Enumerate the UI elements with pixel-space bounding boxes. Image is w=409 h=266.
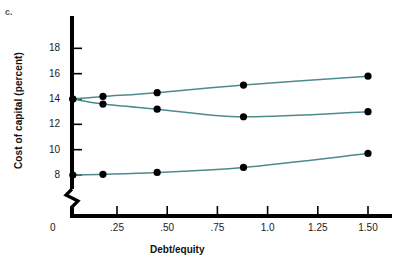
y-axis-break-icon <box>66 189 78 207</box>
x-tick-label-.75: .75 <box>197 222 237 233</box>
series-line-2 <box>73 153 368 175</box>
data-point-s0-p4 <box>364 73 371 80</box>
x-tick-label-1.50: 1.50 <box>348 222 388 233</box>
panel-label: c. <box>5 7 13 17</box>
series-markers <box>69 73 371 179</box>
data-point-s0-p2 <box>154 89 161 96</box>
y-axis-label: Cost of capital (percent) <box>13 31 24 191</box>
series-line-0 <box>73 76 368 99</box>
data-point-s2-p1 <box>99 171 106 178</box>
origin-tick-label: 0 <box>50 222 56 233</box>
y-tick-label-16: 16 <box>38 68 60 79</box>
x-tick-label-.25: .25 <box>97 222 137 233</box>
series-lines <box>73 76 368 175</box>
y-tick-label-18: 18 <box>38 42 60 53</box>
data-point-s0-p3 <box>240 81 247 88</box>
data-point-s1-p2 <box>154 106 161 113</box>
chart-figure: c. Cost of capital (percent) Debt/equity… <box>0 0 409 266</box>
data-point-s2-p2 <box>154 169 161 176</box>
x-tick-label-.50: .50 <box>147 222 187 233</box>
y-tick-label-12: 12 <box>38 118 60 129</box>
data-point-s1-p4 <box>364 108 371 115</box>
data-point-s2-p0 <box>69 171 76 178</box>
x-tick-label-1.25: 1.25 <box>298 222 338 233</box>
data-point-s2-p4 <box>364 150 371 157</box>
tick-marks <box>74 48 368 214</box>
data-point-s1-p3 <box>240 113 247 120</box>
data-point-s1-p0 <box>69 95 76 102</box>
data-point-s1-p1 <box>99 100 106 107</box>
series-line-1 <box>73 99 368 117</box>
y-tick-label-14: 14 <box>38 93 60 104</box>
y-tick-label-8: 8 <box>38 169 60 180</box>
y-tick-label-10: 10 <box>38 144 60 155</box>
x-axis-label: Debt/equity <box>150 244 204 255</box>
data-point-s2-p3 <box>240 164 247 171</box>
x-tick-label-1.0: 1.0 <box>248 222 288 233</box>
data-point-s0-p1 <box>99 93 106 100</box>
